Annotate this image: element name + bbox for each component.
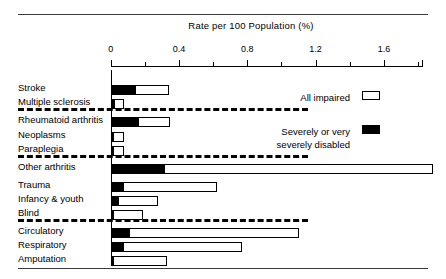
bar-all-impaired — [111, 196, 159, 206]
x-axis-minor-tick — [418, 62, 419, 67]
bar-severely-disabled — [112, 229, 131, 237]
x-axis-minor-tick — [281, 62, 282, 67]
category-label: Stroke — [18, 82, 45, 93]
category-label: Trauma — [18, 179, 50, 190]
bar-severely-disabled — [112, 211, 115, 219]
bar-severely-disabled — [112, 147, 115, 155]
x-axis-tick-label: 0.4 — [164, 44, 194, 54]
bar-severely-disabled — [112, 86, 136, 94]
bar-severely-disabled — [112, 133, 115, 141]
bar-severely-disabled — [112, 118, 139, 126]
bar-severely-disabled — [112, 257, 115, 265]
bar-severely-disabled — [112, 197, 119, 205]
x-axis-tick — [179, 60, 180, 67]
bar-severely-disabled — [112, 100, 115, 108]
category-label: Rheumatoid arthritis — [18, 114, 103, 125]
x-axis-left-cap — [111, 60, 112, 67]
legend-severe-label-line2: severely disabled — [230, 139, 350, 150]
x-axis-right-cap — [422, 60, 423, 67]
x-axis-tick — [384, 60, 385, 67]
bar-all-impaired — [111, 132, 125, 142]
bar-all-impaired — [111, 228, 299, 238]
category-label: Infancy & youth — [18, 193, 83, 204]
x-axis-tick-label: 0.8 — [232, 44, 262, 54]
x-axis-tick — [247, 60, 248, 67]
category-label: Paraplegia — [18, 143, 63, 154]
bar-all-impaired — [111, 164, 434, 174]
bar-all-impaired — [111, 256, 167, 266]
x-axis-minor-tick — [350, 62, 351, 67]
bar-all-impaired — [111, 117, 171, 127]
category-label: Multiple sclerosis — [18, 96, 90, 107]
bar-all-impaired — [111, 182, 217, 192]
category-label: Other arthritis — [18, 161, 76, 172]
category-label: Blind — [18, 207, 39, 218]
bar-severely-disabled — [112, 165, 165, 173]
category-label: Neoplasms — [18, 129, 66, 140]
x-axis-line — [111, 66, 423, 67]
legend-all-impaired-swatch — [362, 91, 380, 100]
x-axis-minor-tick — [213, 62, 214, 67]
x-axis-tick-label: 1.2 — [301, 44, 331, 54]
group-separator — [18, 108, 308, 111]
category-label: Respiratory — [18, 239, 67, 250]
x-axis-tick-label: 0 — [96, 44, 126, 54]
legend-all-impaired-label: All impaired — [240, 92, 350, 103]
plot-area: 00.40.81.21.6StrokeMultiple sclerosisRhe… — [0, 0, 446, 279]
x-axis-minor-tick — [145, 62, 146, 67]
category-label: Circulatory — [18, 225, 63, 236]
bar-severely-disabled — [112, 243, 124, 251]
bar-all-impaired — [111, 242, 242, 252]
bar-severely-disabled — [112, 183, 124, 191]
x-axis-tick — [316, 60, 317, 67]
category-label: Amputation — [18, 253, 66, 264]
x-axis-tick-label: 1.6 — [369, 44, 399, 54]
bar-all-impaired — [111, 85, 169, 95]
legend-severe-label-line1: Severely or very — [230, 126, 350, 137]
chart-figure: Rate per 100 Population (%) 00.40.81.21.… — [0, 0, 446, 279]
group-separator — [18, 155, 308, 158]
group-separator — [18, 219, 308, 222]
legend-severe-swatch — [362, 125, 380, 134]
